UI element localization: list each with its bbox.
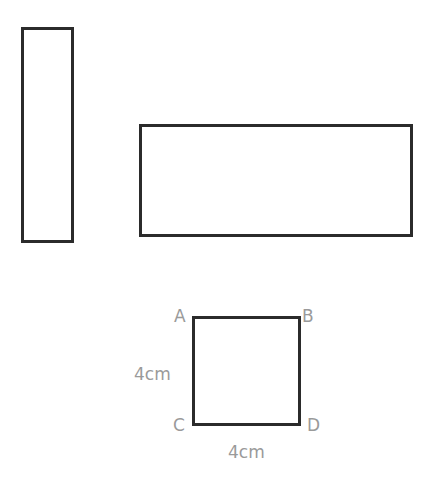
- vertex-label-c: C: [173, 417, 185, 434]
- vertex-label-d: D: [307, 417, 320, 434]
- vertex-label-b: B: [302, 308, 314, 325]
- vertex-label-a: A: [174, 308, 186, 325]
- side-length-left: 4cm: [134, 366, 171, 383]
- tall-rectangle: [21, 27, 74, 243]
- wide-rectangle: [139, 124, 413, 237]
- square-abcd: [192, 316, 301, 426]
- side-length-bottom: 4cm: [228, 444, 265, 461]
